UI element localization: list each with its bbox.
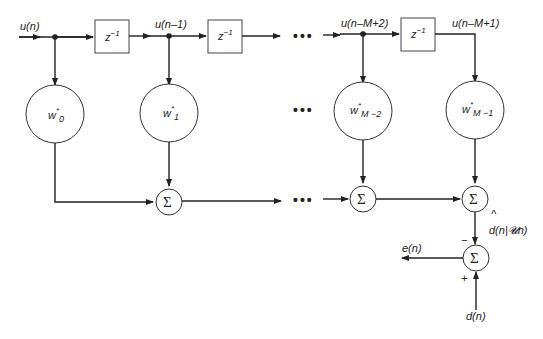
plus-sign: +	[461, 272, 468, 284]
filter-diagram: ••• ••• w*0 w*1 w*M −2 w*M −1 Σ ••• Σ Σ …	[0, 0, 543, 339]
sum-symbol: Σ	[163, 194, 172, 210]
label-u-n-M2: u(n–M+2)	[341, 17, 389, 29]
ellipsis-bottom: •••	[293, 192, 314, 208]
label-desired: d(n)	[466, 310, 486, 322]
hat-mark: ^	[491, 208, 497, 220]
label-u-n: u(n)	[20, 20, 40, 32]
minus-sign: −	[461, 234, 468, 246]
sum-symbol: Σ	[470, 250, 479, 266]
sum-symbol: Σ	[469, 191, 478, 207]
label-estimate: d(n|𝓤n)	[489, 224, 528, 236]
ellipsis-top: •••	[293, 28, 314, 44]
label-u-n-1: u(n–1)	[155, 18, 187, 30]
label-error: e(n)	[402, 242, 422, 254]
label-u-n-M1: u(n–M+1)	[452, 17, 500, 29]
ellipsis-middle: •••	[293, 102, 314, 118]
sum-symbol: Σ	[357, 191, 366, 207]
